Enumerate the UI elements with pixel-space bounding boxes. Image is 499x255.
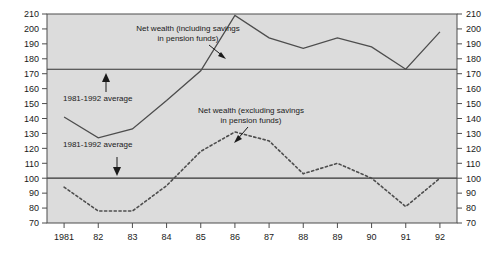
y-axis-right-tick-label: 210 bbox=[466, 9, 481, 19]
x-axis-tick-label: 1981 bbox=[54, 232, 74, 242]
y-axis-right-tick-label: 200 bbox=[466, 24, 481, 34]
y-axis-left-ticks: 7080901001101201301401501601701801902002… bbox=[24, 9, 47, 228]
y-axis-right-tick-label: 180 bbox=[466, 54, 481, 64]
annotation-series-1-line1: Net wealth (including savings bbox=[136, 24, 240, 33]
y-axis-right-tick-label: 190 bbox=[466, 39, 481, 49]
y-axis-left-tick-label: 130 bbox=[24, 129, 39, 139]
y-axis-left-tick-label: 120 bbox=[24, 144, 39, 154]
annotation-average-upper-label: 1981-1992 average bbox=[63, 94, 133, 103]
y-axis-left-tick-label: 150 bbox=[24, 99, 39, 109]
x-axis-tick-label: 88 bbox=[298, 232, 308, 242]
annotation-series-2-line2: in pension funds) bbox=[221, 116, 282, 125]
x-axis-tick-label: 87 bbox=[264, 232, 274, 242]
x-axis-tick-label: 83 bbox=[127, 232, 137, 242]
annotation-series-2-line1: Net wealth (excluding savings bbox=[198, 106, 304, 115]
annotation-series-1-line2: in pension funds) bbox=[158, 34, 219, 43]
y-axis-left-tick-label: 80 bbox=[29, 203, 39, 213]
y-axis-right-tick-label: 110 bbox=[466, 159, 480, 169]
x-axis-tick-label: 82 bbox=[93, 232, 103, 242]
y-axis-right-tick-label: 80 bbox=[466, 203, 476, 213]
y-axis-left-tick-label: 160 bbox=[24, 84, 39, 94]
y-axis-left-tick-label: 70 bbox=[29, 218, 39, 228]
x-axis-ticks: 19818283848586878889909192 bbox=[54, 223, 445, 242]
y-axis-left-tick-label: 180 bbox=[24, 54, 39, 64]
y-axis-left-tick-label: 210 bbox=[24, 9, 39, 19]
y-axis-left-tick-label: 190 bbox=[24, 39, 39, 49]
y-axis-left-tick-label: 170 bbox=[24, 69, 39, 79]
y-axis-right-tick-label: 130 bbox=[466, 129, 481, 139]
y-axis-right-ticks: 7080901001101201301401501601701801902002… bbox=[457, 9, 481, 228]
x-axis-tick-label: 90 bbox=[367, 232, 377, 242]
y-axis-right-tick-label: 100 bbox=[466, 174, 481, 184]
y-axis-right-tick-label: 70 bbox=[466, 218, 476, 228]
chart-figure: 7080901001101201301401501601701801902002… bbox=[0, 0, 499, 255]
y-axis-right-tick-label: 90 bbox=[466, 188, 476, 198]
y-axis-right-tick-label: 150 bbox=[466, 99, 481, 109]
x-axis-tick-label: 91 bbox=[401, 232, 411, 242]
y-axis-left-tick-label: 100 bbox=[24, 174, 39, 184]
y-axis-right-tick-label: 170 bbox=[466, 69, 481, 79]
y-axis-right-tick-label: 120 bbox=[466, 144, 481, 154]
y-axis-left-tick-label: 200 bbox=[24, 24, 39, 34]
line-chart: 7080901001101201301401501601701801902002… bbox=[0, 0, 499, 255]
x-axis-tick-label: 84 bbox=[162, 232, 172, 242]
x-axis-tick-label: 85 bbox=[196, 232, 206, 242]
y-axis-left-tick-label: 90 bbox=[29, 188, 39, 198]
y-axis-left-tick-label: 110 bbox=[25, 159, 39, 169]
annotation-average-lower-label: 1981-1992 average bbox=[63, 140, 133, 149]
x-axis-tick-label: 86 bbox=[230, 232, 240, 242]
y-axis-right-tick-label: 160 bbox=[466, 84, 481, 94]
x-axis-tick-label: 89 bbox=[332, 232, 342, 242]
y-axis-right-tick-label: 140 bbox=[466, 114, 481, 124]
y-axis-left-tick-label: 140 bbox=[24, 114, 39, 124]
x-axis-tick-label: 92 bbox=[435, 232, 445, 242]
